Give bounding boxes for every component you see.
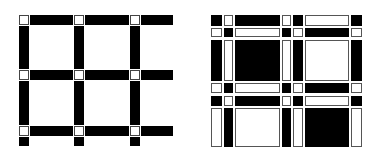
weave-cell-white bbox=[211, 83, 222, 93]
weave-cell-white bbox=[282, 40, 291, 81]
weave-cell-white bbox=[305, 40, 349, 81]
weave-cell-black bbox=[282, 108, 291, 147]
weave-cell-white bbox=[293, 83, 303, 93]
grid-node bbox=[130, 15, 140, 25]
weave-cell-white bbox=[351, 83, 362, 93]
weave-cell-black bbox=[235, 96, 280, 106]
vertical-bar bbox=[130, 137, 140, 146]
weave-cell-white bbox=[282, 96, 291, 106]
weave-cell-black bbox=[235, 15, 280, 26]
weave-cell-white bbox=[211, 108, 222, 147]
grid-node bbox=[130, 70, 140, 80]
grid-node bbox=[74, 70, 84, 80]
weave-cell-black bbox=[282, 28, 291, 37]
weave-cell-black bbox=[224, 83, 233, 93]
weave-cell-white bbox=[282, 15, 291, 26]
weave-cell-white bbox=[305, 96, 349, 106]
weave-cell-black bbox=[293, 15, 303, 26]
vertical-bar bbox=[19, 26, 29, 69]
weave-cell-white bbox=[351, 108, 362, 147]
weave-cell-white bbox=[293, 108, 303, 147]
horizontal-bar bbox=[141, 70, 173, 80]
grid-node bbox=[74, 126, 84, 136]
horizontal-bar bbox=[141, 15, 173, 25]
grid-node bbox=[74, 15, 84, 25]
weave-cell-white bbox=[235, 83, 280, 93]
weave-cell-black bbox=[351, 15, 362, 26]
vertical-bar bbox=[74, 26, 84, 69]
horizontal-bar bbox=[30, 126, 73, 136]
weave-cell-black bbox=[235, 40, 280, 81]
vertical-bar bbox=[74, 137, 84, 146]
weave-cell-white bbox=[224, 96, 233, 106]
weave-cell-black bbox=[211, 96, 222, 106]
weave-cell-black bbox=[305, 108, 349, 147]
vertical-bar bbox=[19, 137, 29, 146]
weave-cell-black bbox=[211, 40, 222, 81]
weave-cell-black bbox=[211, 15, 222, 26]
horizontal-bar bbox=[30, 70, 73, 80]
horizontal-bar bbox=[85, 15, 129, 25]
weave-cell-white bbox=[235, 28, 280, 37]
horizontal-bar bbox=[85, 126, 129, 136]
weave-cell-black bbox=[351, 40, 362, 81]
horizontal-bar bbox=[85, 70, 129, 80]
weave-cell-black bbox=[282, 83, 291, 93]
weave-cell-black bbox=[351, 96, 362, 106]
weave-cell-black bbox=[224, 108, 233, 147]
weave-cell-white bbox=[224, 40, 233, 81]
weave-cell-white bbox=[351, 28, 362, 37]
vertical-bar bbox=[19, 81, 29, 125]
weave-cell-black bbox=[305, 28, 349, 37]
weave-cell-black bbox=[293, 96, 303, 106]
weave-cell-white bbox=[211, 28, 222, 37]
weave-cell-white bbox=[224, 15, 233, 26]
weave-cell-white bbox=[293, 28, 303, 37]
weave-cell-white bbox=[305, 15, 349, 26]
grid-node bbox=[19, 70, 29, 80]
horizontal-bar bbox=[141, 126, 173, 136]
horizontal-bar bbox=[30, 15, 73, 25]
weave-cell-black bbox=[224, 28, 233, 37]
vertical-bar bbox=[130, 26, 140, 69]
grid-node bbox=[130, 126, 140, 136]
grid-node bbox=[19, 15, 29, 25]
weave-cell-black bbox=[305, 83, 349, 93]
grid-node bbox=[19, 126, 29, 136]
vertical-bar bbox=[130, 81, 140, 125]
weave-cell-black bbox=[293, 40, 303, 81]
weave-cell-white bbox=[235, 108, 280, 147]
vertical-bar bbox=[74, 81, 84, 125]
